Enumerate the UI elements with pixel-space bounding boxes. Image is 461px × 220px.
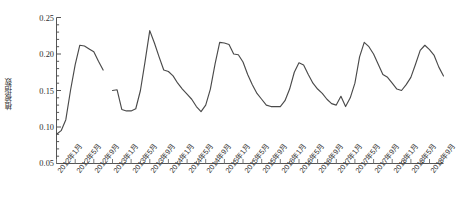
data-series-group	[57, 31, 444, 135]
data-line	[57, 45, 104, 134]
y-axis-title: 植被指数	[2, 58, 16, 130]
data-line	[112, 31, 443, 112]
plot-area	[0, 0, 461, 220]
y-axis-tick-label: 0.25	[28, 14, 54, 23]
vegetation-index-chart: 植被指数 0.25 0.20 0.15 0.10 0.05 2012年1月201…	[0, 0, 461, 220]
y-axis-ticks	[57, 18, 62, 164]
y-axis-tick-label: 0.05	[28, 159, 54, 168]
y-axis-tick-label: 0.15	[28, 87, 54, 96]
y-axis-tick-label: 0.20	[28, 50, 54, 59]
y-axis-tick-label: 0.10	[28, 123, 54, 132]
